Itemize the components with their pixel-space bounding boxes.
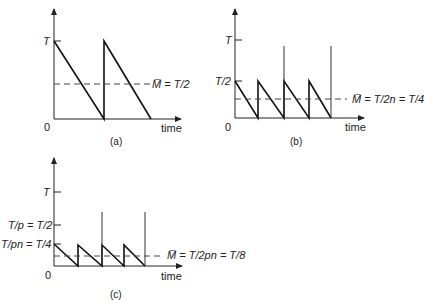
tick-label-T: T xyxy=(225,34,233,46)
x-axis-label: time xyxy=(161,122,182,134)
origin-label: 0 xyxy=(44,121,50,133)
mean-label: M̅ = T/2 xyxy=(152,78,190,90)
tick-label-T-pn: T/pn = T/4 xyxy=(1,238,51,250)
x-axis-label: time xyxy=(345,121,366,133)
tick-label-T-p: T/p = T/2 xyxy=(8,219,52,231)
panel-caption: (a) xyxy=(110,136,122,147)
tick-label-T: T xyxy=(43,186,51,198)
origin-label: 0 xyxy=(45,269,51,281)
x-axis-label: time xyxy=(161,270,182,282)
panel-b: T T/2 0 M̅ = T/2n = T/4 time (b) xyxy=(215,9,424,147)
tick-label-T: T xyxy=(43,35,51,47)
mean-label: M̅ = T/2pn = T/8 xyxy=(167,249,246,261)
panel-c: T T/p = T/2 T/pn = T/4 0 M̅ = T/2pn = T/… xyxy=(1,158,246,300)
panel-caption: (c) xyxy=(110,289,122,300)
tick-label-T-half: T/2 xyxy=(215,75,231,87)
figure-canvas: T 0 M̅ = T/2 time (a) T T/2 0 M̅ = T/2n … xyxy=(0,0,433,307)
sawtooth-curve xyxy=(54,41,151,119)
sawtooth-curve xyxy=(54,244,145,266)
panel-caption: (b) xyxy=(290,136,302,147)
mean-label: M̅ = T/2n = T/4 xyxy=(352,93,424,105)
origin-label: 0 xyxy=(225,121,231,133)
panel-a: T 0 M̅ = T/2 time (a) xyxy=(43,9,190,147)
